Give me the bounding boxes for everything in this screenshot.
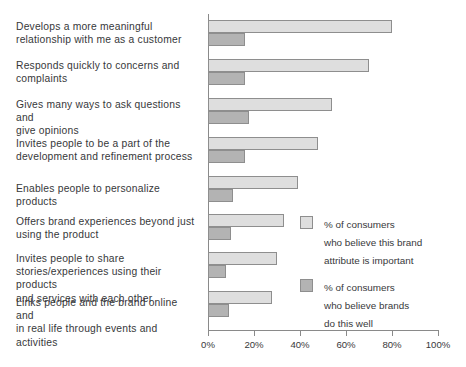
bar-important	[208, 98, 332, 111]
bar-dothiswell	[208, 72, 245, 85]
bar-chart: Develops a more meaningfulrelationship w…	[0, 0, 466, 367]
legend-label: % of consumers who believe brands do thi…	[324, 282, 409, 329]
bar-important	[208, 252, 277, 265]
bar-important	[208, 176, 298, 189]
x-axis-tick-label: 80%	[382, 339, 401, 350]
category-label: Links people and the brand online andin …	[16, 296, 197, 349]
bar-dothiswell	[208, 304, 229, 317]
chart-legend: % of consumers who believe this brand at…	[300, 214, 460, 340]
category-label: Gives many ways to ask questions andgive…	[16, 98, 197, 138]
x-axis-tick	[208, 330, 209, 336]
x-axis-tick-label: 100%	[426, 339, 451, 350]
bar-dothiswell	[208, 33, 245, 46]
category-label: Enables people to personalize products	[16, 182, 197, 208]
bar-dothiswell	[208, 150, 245, 163]
x-axis-tick-label: 20%	[244, 339, 263, 350]
bar-important	[208, 20, 392, 33]
bar-important	[208, 214, 284, 227]
legend-swatch-dothiswell	[300, 279, 313, 292]
bar-important	[208, 137, 318, 150]
bar-dothiswell	[208, 265, 226, 278]
category-label: Offers brand experiences beyond justusin…	[16, 215, 197, 241]
bar-dothiswell	[208, 189, 233, 202]
bar-important	[208, 291, 272, 304]
x-axis-tick	[254, 330, 255, 336]
category-label-list: Develops a more meaningfulrelationship w…	[0, 0, 205, 330]
x-axis-tick-label: 40%	[290, 339, 309, 350]
x-axis-tick-label: 60%	[336, 339, 355, 350]
x-axis-tick-label: 0%	[201, 339, 215, 350]
category-label: Develops a more meaningfulrelationship w…	[16, 20, 197, 46]
legend-label: % of consumers who believe this brand at…	[324, 219, 422, 266]
category-label: Invites people to be a part of thedevelo…	[16, 137, 197, 163]
legend-entry: % of consumers who believe this brand at…	[300, 214, 460, 268]
legend-entry: % of consumers who believe brands do thi…	[300, 277, 460, 331]
legend-swatch-important	[300, 216, 313, 229]
category-label: Responds quickly to concerns andcomplain…	[16, 59, 197, 85]
bar-dothiswell	[208, 111, 249, 124]
bar-important	[208, 59, 369, 72]
bar-dothiswell	[208, 227, 231, 240]
